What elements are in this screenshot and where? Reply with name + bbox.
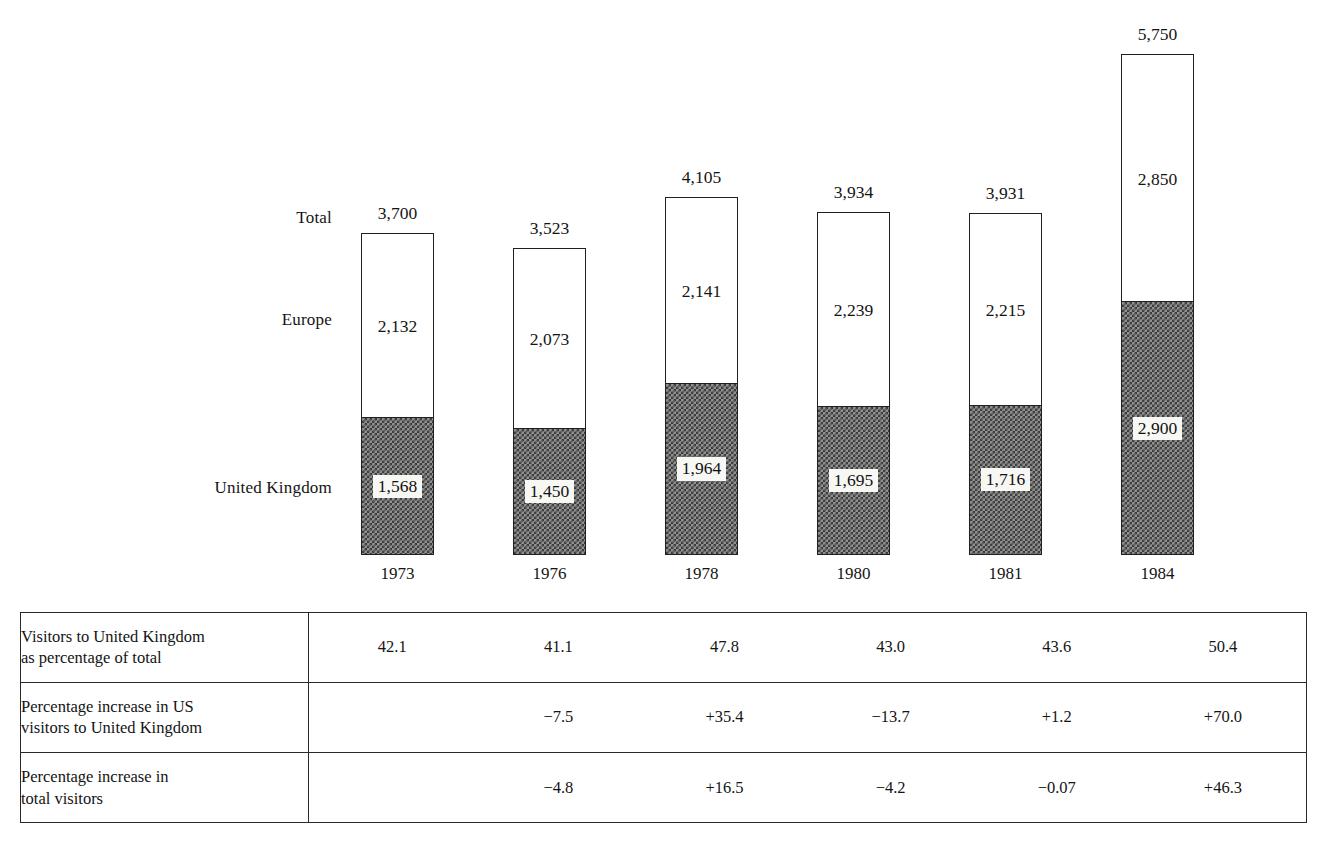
bar-segment-europe-value: 2,239 — [834, 300, 873, 321]
table-row-header-line: Visitors to United Kingdom — [21, 626, 308, 648]
table-cell: −7.5 — [475, 682, 641, 752]
bar-stack: 2,2391,695 — [817, 212, 890, 555]
stacked-bar-chart: Total Europe United Kingdom 3,7002,1321,… — [0, 0, 1332, 600]
bar-segment-europe: 2,141 — [666, 198, 737, 384]
bar-total-label: 3,934 — [784, 182, 924, 203]
bar-group-1978: 4,1052,1411,9641978 — [665, 197, 738, 555]
table-cell: −4.2 — [808, 753, 974, 822]
statistics-table: Visitors to United Kingdomas percentage … — [20, 612, 1307, 823]
table-cell: 41.1 — [475, 613, 641, 682]
bar-segment-united-kingdom: 1,450 — [514, 428, 585, 554]
table-row-header-line: as percentage of total — [21, 647, 308, 669]
bar-total-label: 5,750 — [1088, 24, 1228, 45]
bar-segment-europe: 2,073 — [514, 249, 585, 430]
bar-segment-europe: 2,239 — [818, 213, 889, 408]
bar-segment-europe-value: 2,215 — [986, 300, 1025, 321]
bar-segment-europe-value: 2,850 — [1138, 169, 1177, 190]
table-row-header: Percentage increase intotal visitors — [21, 753, 309, 822]
table-row-header: Percentage increase in USvisitors to Uni… — [21, 682, 309, 752]
bar-stack: 2,8502,900 — [1121, 54, 1194, 555]
x-axis-tick-label-1976: 1976 — [480, 564, 620, 584]
bar-total-label: 3,523 — [480, 218, 620, 239]
bar-segment-europe: 2,215 — [970, 214, 1041, 407]
table-cell: 42.1 — [309, 613, 476, 682]
table-cell: +35.4 — [641, 682, 807, 752]
table-row-header-line: total visitors — [21, 788, 308, 810]
bar-segment-united-kingdom-value: 1,964 — [677, 457, 726, 480]
bar-segment-united-kingdom-value: 1,568 — [373, 475, 422, 498]
bar-group-1976: 3,5232,0731,4501976 — [513, 248, 586, 555]
x-axis-tick-label-1980: 1980 — [784, 564, 924, 584]
bar-segment-europe: 2,850 — [1122, 55, 1193, 303]
bar-stack: 2,0731,450 — [513, 248, 586, 555]
bar-stack: 2,2151,716 — [969, 213, 1042, 555]
series-label-united-kingdom: United Kingdom — [214, 478, 332, 498]
table-cell — [309, 753, 476, 822]
table-cell: +70.0 — [1140, 682, 1306, 752]
table-cell: +1.2 — [974, 682, 1140, 752]
table-cell: +16.5 — [641, 753, 807, 822]
bar-segment-united-kingdom-value: 1,695 — [829, 469, 878, 492]
bar-stack: 2,1321,568 — [361, 233, 434, 555]
table-cell: −0.07 — [974, 753, 1140, 822]
bar-total-label: 3,931 — [936, 183, 1076, 204]
table-cell: −13.7 — [808, 682, 974, 752]
table-cell: −4.8 — [475, 753, 641, 822]
bar-segment-united-kingdom-value: 1,450 — [525, 480, 574, 503]
bar-segment-united-kingdom: 1,568 — [362, 417, 433, 554]
table-cell: 50.4 — [1140, 613, 1306, 682]
table-row: Percentage increase intotal visitors−4.8… — [21, 753, 1306, 822]
bar-group-1973: 3,7002,1321,5681973 — [361, 233, 434, 555]
table-row-header-line: Percentage increase in US — [21, 696, 308, 718]
bar-group-1980: 3,9342,2391,6951980 — [817, 212, 890, 555]
x-axis-tick-label-1973: 1973 — [328, 564, 468, 584]
bar-segment-united-kingdom-value: 1,716 — [981, 468, 1030, 491]
table-cell — [309, 682, 476, 752]
table-cell: 43.6 — [974, 613, 1140, 682]
bar-segment-united-kingdom-value: 2,900 — [1133, 417, 1182, 440]
table-row: Visitors to United Kingdomas percentage … — [21, 613, 1306, 682]
series-label-europe: Europe — [282, 310, 332, 330]
bar-segment-united-kingdom: 1,964 — [666, 383, 737, 554]
bar-segment-europe-value: 2,141 — [682, 281, 721, 302]
x-axis-tick-label-1984: 1984 — [1088, 564, 1228, 584]
table-row: Percentage increase in USvisitors to Uni… — [21, 682, 1306, 752]
table-cell: +46.3 — [1140, 753, 1306, 822]
bar-segment-united-kingdom: 1,695 — [818, 406, 889, 554]
bar-total-label: 4,105 — [632, 167, 772, 188]
table-row-header-line: Percentage increase in — [21, 766, 308, 788]
table-cell: 47.8 — [641, 613, 807, 682]
x-axis-tick-label-1978: 1978 — [632, 564, 772, 584]
table-row-header-line: visitors to United Kingdom — [21, 717, 308, 739]
bar-segment-europe-value: 2,132 — [378, 316, 417, 337]
bar-group-1981: 3,9312,2151,7161981 — [969, 213, 1042, 555]
table-cell: 43.0 — [808, 613, 974, 682]
bar-segment-united-kingdom: 2,900 — [1122, 301, 1193, 554]
bar-total-label: 3,700 — [328, 203, 468, 224]
bar-segment-europe-value: 2,073 — [530, 329, 569, 350]
bar-segment-united-kingdom: 1,716 — [970, 405, 1041, 554]
table-row-header: Visitors to United Kingdomas percentage … — [21, 613, 309, 682]
bar-segment-europe: 2,132 — [362, 234, 433, 420]
bar-group-1984: 5,7502,8502,9001984 — [1121, 54, 1194, 555]
bar-stack: 2,1411,964 — [665, 197, 738, 555]
x-axis-tick-label-1981: 1981 — [936, 564, 1076, 584]
